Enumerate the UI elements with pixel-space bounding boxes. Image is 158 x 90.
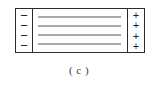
- positive-charge-column: + + + +: [128, 9, 144, 52]
- field-line: [38, 43, 121, 45]
- field-line-group: [33, 9, 126, 52]
- field-line: [38, 34, 121, 36]
- minus-sign-icon: −: [16, 42, 32, 49]
- plus-sign-icon: +: [128, 42, 144, 50]
- plus-sign-icon: +: [128, 21, 144, 29]
- diagram-outer-rectangle: − − − − + + + +: [15, 8, 145, 53]
- field-line: [38, 16, 121, 18]
- negative-charge-column: − − − −: [16, 9, 32, 52]
- plus-sign-icon: +: [128, 11, 144, 19]
- figure-root: − − − − + + + + ( c ): [0, 0, 158, 90]
- plus-sign-icon: +: [128, 32, 144, 40]
- field-line: [38, 25, 121, 27]
- figure-caption: ( c ): [0, 64, 158, 76]
